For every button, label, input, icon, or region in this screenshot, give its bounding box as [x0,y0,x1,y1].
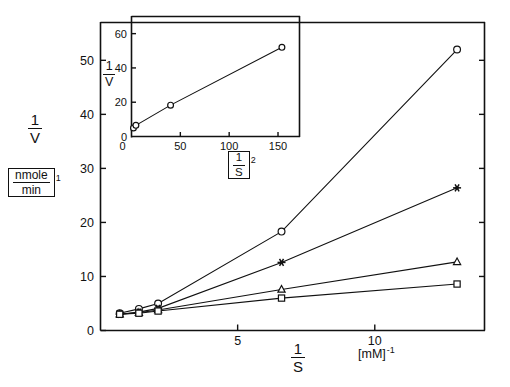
plot-canvas: 01020304050 510 0204060 050100150 [0,0,510,387]
main-right-tick-group [479,60,485,276]
inset-y-label-numerator: 1 [103,60,115,75]
main-x-axis-units: [mM]-1 [358,346,395,361]
main-y-tick-label: 20 [80,216,94,230]
main-x-units-exponent: -1 [387,345,395,355]
main-x-axis-label: 1 S [291,341,305,374]
series-square-marker-square [278,295,284,301]
lineweaver-burk-figure: 01020304050 510 0204060 050100150 1 V nm… [0,0,510,387]
inset-series-circle-marker-circle [133,122,139,128]
main-y-units-exponent: 1 [56,173,61,183]
inset-x-tick-label: 50 [174,140,186,152]
main-y-label-denominator: V [28,129,42,145]
main-y-units-denominator: min [13,183,50,196]
series-circle-marker-circle [278,228,285,235]
main-y-units-numerator: nmole [13,169,50,183]
inset-x-label-denominator: S [233,166,245,179]
main-x-tick-group: 510 [234,325,382,349]
inset-x-label-exponent: 2 [251,155,256,165]
main-x-label-denominator: S [291,358,305,374]
main-y-axis-units: nmole min 1 [8,168,61,197]
inset-series-circle-line [133,47,281,128]
main-y-tick-label: 0 [87,324,94,338]
main-y-axis-label: 1 V [28,112,42,145]
inset-x-axis-label: 1 S 2 [228,151,256,179]
main-series-group [116,46,461,318]
main-x-units-text: mM [361,347,382,361]
inset-y-tick-label: 60 [115,28,127,40]
series-star-line [120,188,457,314]
inset-y-tick-label: 40 [115,62,127,74]
series-star-marker-star [278,259,286,266]
series-square-marker-square [117,311,123,317]
main-y-tick-group: 01020304050 [80,54,106,338]
inset-series-group [131,44,285,130]
inset-x-tick-group: 050100150 [119,132,287,152]
main-y-tick-label: 10 [80,270,94,284]
main-y-tick-label: 40 [80,108,94,122]
series-square-marker-square [454,281,460,287]
inset-y-axis-label: 1 V [103,60,115,88]
main-y-units-bracket: nmole min [8,168,55,197]
inset-x-label-bracket: 1 S [228,151,250,179]
series-triangle-marker-triangle [453,258,460,265]
inset-y-label-denominator: V [103,75,115,89]
main-x-units-close-bracket: ] [382,347,385,361]
series-circle-line [120,50,457,314]
inset-series-circle-marker-circle [279,44,285,50]
inset-x-tick-label: 150 [269,140,287,152]
inset-series-circle-marker-circle [168,102,174,108]
inset-frame [132,16,301,138]
series-star-marker-star [453,184,461,191]
main-x-tick-label: 5 [234,334,241,348]
main-x-label-numerator: 1 [291,341,305,358]
inset-x-label-numerator: 1 [233,152,245,166]
inset-x-tick-label: 0 [119,140,125,152]
main-y-tick-label: 50 [80,54,94,68]
series-square-marker-square [136,310,142,316]
series-circle-marker-circle [454,46,461,53]
main-y-label-numerator: 1 [28,112,42,129]
main-y-tick-label: 30 [80,162,94,176]
series-square-marker-square [155,308,161,314]
main-axes [101,22,486,331]
inset-y-tick-label: 20 [115,96,127,108]
